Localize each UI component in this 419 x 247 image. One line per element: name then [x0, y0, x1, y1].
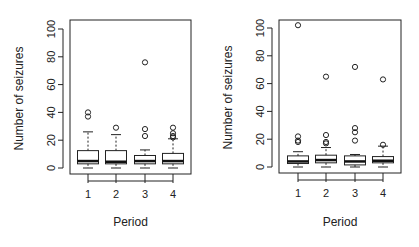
outlier-point: [142, 60, 147, 65]
box-period-3: [135, 60, 156, 168]
outlier-point: [352, 64, 357, 69]
boxplot-panel-right: 0204060801001234PeriodNumber of seizures: [221, 19, 401, 229]
y-tick-label: 20: [45, 134, 57, 146]
y-tick-label: 100: [45, 20, 57, 38]
x-tick-label: 2: [113, 188, 119, 200]
outlier-point: [323, 74, 328, 79]
outlier-point: [142, 133, 147, 138]
y-axis-label: Number of seizures: [12, 46, 26, 150]
y-tick-label: 60: [45, 78, 57, 90]
x-tick-label: 1: [295, 187, 301, 199]
x-tick-label: 2: [323, 187, 329, 199]
outlier-point: [352, 138, 357, 143]
x-tick-label: 4: [170, 188, 176, 200]
y-tick-label: 0: [45, 165, 57, 171]
x-tick-label: 3: [352, 187, 358, 199]
y-axis-label: Number of seizures: [221, 45, 235, 149]
x-axis-label: Period: [323, 215, 358, 229]
y-tick-label: 40: [254, 105, 266, 117]
x-axis-label: Period: [113, 215, 148, 229]
x-tick-label: 3: [142, 188, 148, 200]
box-period-4: [163, 125, 184, 168]
box-period-3: [345, 64, 366, 167]
outlier-point: [170, 125, 175, 130]
y-tick-label: 0: [254, 164, 266, 170]
y-tick-label: 20: [254, 133, 266, 145]
boxplot-figure: 0204060801001234PeriodNumber of seizures…: [0, 0, 419, 247]
y-tick-label: 100: [254, 19, 266, 37]
outlier-point: [295, 23, 300, 28]
plot-frame: [279, 20, 401, 173]
outlier-point: [142, 126, 147, 131]
box-period-4: [373, 77, 394, 167]
y-tick-label: 40: [45, 106, 57, 118]
y-tick-label: 80: [45, 51, 57, 63]
box-period-2: [106, 125, 127, 168]
y-tick-label: 80: [254, 50, 266, 62]
outlier-point: [323, 132, 328, 137]
x-tick-label: 1: [85, 188, 91, 200]
y-tick-label: 60: [254, 77, 266, 89]
x-tick-label: 4: [380, 187, 386, 199]
box-period-2: [316, 74, 337, 167]
box-period-1: [288, 23, 309, 167]
outlier-point: [113, 125, 118, 130]
boxplot-panel-left: 0204060801001234PeriodNumber of seizures: [12, 20, 191, 229]
box-period-1: [78, 110, 99, 168]
outlier-point: [380, 77, 385, 82]
